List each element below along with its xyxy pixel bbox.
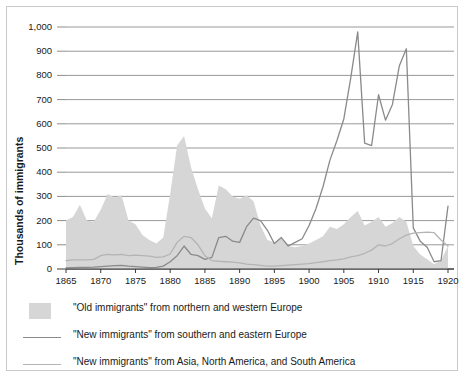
legend-label-new-immigrants-americas-asia: "New immigrants" from Asia, North Americ… [73, 356, 355, 367]
x-axis-tick-label: 1910 [362, 275, 396, 286]
x-axis-tick-label: 1895 [257, 275, 291, 286]
y-axis-tick-label: 300 [18, 190, 52, 201]
x-axis-tick-label: 1870 [84, 275, 118, 286]
area-swatch-icon [29, 303, 51, 319]
y-axis-tick-label: 200 [18, 215, 52, 226]
figure-container: Thousands of immigrants "Old immigrants"… [0, 0, 464, 377]
x-axis-tick-label: 1900 [292, 275, 326, 286]
x-axis-tick-label: 1905 [327, 275, 361, 286]
y-axis-tick-label: 400 [18, 166, 52, 177]
x-axis-tick-label: 1865 [49, 275, 83, 286]
y-axis-tick-label: 700 [18, 94, 52, 105]
legend-item-new-immigrants-europe: "New immigrants" from southern and easte… [29, 328, 449, 355]
x-axis-tick-label: 1920 [431, 275, 464, 286]
y-axis-tick-label: 1,000 [18, 21, 52, 32]
y-axis-tick-label: 0 [18, 263, 52, 274]
y-axis-tick-label: 100 [18, 239, 52, 250]
y-axis-tick-label: 500 [18, 142, 52, 153]
x-axis-tick-label: 1875 [118, 275, 152, 286]
y-axis-tick-label: 800 [18, 69, 52, 80]
line-swatch-light-icon [23, 364, 61, 365]
y-axis-tick-label: 900 [18, 45, 52, 56]
legend-label-new-immigrants-europe: "New immigrants" from southern and easte… [73, 329, 307, 340]
x-axis-tick-label: 1890 [223, 275, 257, 286]
chart-frame: Thousands of immigrants "Old immigrants"… [6, 6, 458, 371]
area-series-old-immigrants [66, 136, 448, 269]
x-axis-tick-label: 1915 [396, 275, 430, 286]
chart-legend: "Old immigrants" from northern and weste… [29, 301, 449, 377]
legend-item-new-immigrants-americas-asia: "New immigrants" from Asia, North Americ… [29, 355, 449, 377]
x-axis-tick-label: 1880 [153, 275, 187, 286]
line-swatch-dark-icon [23, 337, 61, 338]
legend-item-old-immigrants: "Old immigrants" from northern and weste… [29, 301, 449, 328]
x-axis-tick-label: 1885 [188, 275, 222, 286]
legend-label-old-immigrants: "Old immigrants" from northern and weste… [73, 302, 302, 313]
y-axis-tick-label: 600 [18, 118, 52, 129]
